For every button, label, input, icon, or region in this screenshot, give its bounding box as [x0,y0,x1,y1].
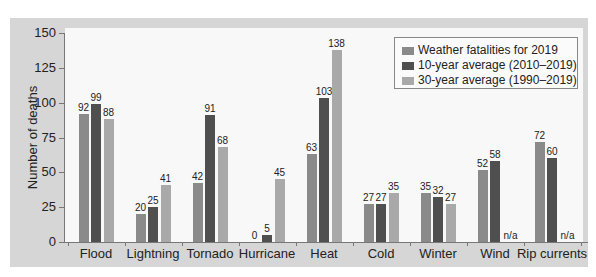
bar [193,183,203,242]
y-tick-label: 50 [16,164,56,179]
value-label: 68 [211,135,235,146]
bar [376,204,386,242]
bar [275,179,285,242]
value-label: 27 [439,192,463,203]
y-tick-label: 150 [16,25,56,40]
legend-item-10yr: 10-year average (2010–2019) [402,58,577,72]
value-label: 88 [97,107,121,118]
legend-label: 30-year average (1990–2019) [418,73,577,87]
legend-swatch [402,62,414,70]
y-tick-label: 75 [16,130,56,145]
legend-swatch [402,77,414,85]
value-label: 45 [268,167,292,178]
y-tick-label: 0 [16,234,56,249]
bar [104,119,114,242]
value-label: 41 [154,173,178,184]
bar [319,98,329,242]
legend-item-2019: Weather fatalities for 2019 [402,43,558,57]
y-axis [64,33,65,243]
bar [421,193,431,242]
bar [218,147,228,242]
bar [262,235,272,242]
bar [364,204,374,242]
value-label: 91 [198,103,222,114]
bar [205,115,215,242]
bar [161,185,171,242]
bar [148,207,158,242]
legend: Weather fatalities for 2019 10-year aver… [394,37,578,89]
legend-label: Weather fatalities for 2019 [418,43,558,57]
bar [433,197,443,242]
bar [478,170,488,242]
na-label: n/a [499,230,523,241]
value-label: 99 [84,92,108,103]
value-label: 60 [540,146,564,157]
y-tick-label: 125 [16,60,56,75]
bar [389,193,399,242]
value-label: 58 [483,149,507,160]
bar [79,114,89,242]
bar [307,154,317,242]
y-tick-label: 100 [16,95,56,110]
value-label: 138 [325,38,349,49]
bar [446,204,456,242]
legend-swatch [402,47,414,55]
bar [332,50,342,242]
x-axis [64,242,588,243]
legend-item-30yr: 30-year average (1990–2019) [402,73,577,87]
bar [136,214,146,242]
category-label: Rip currents [512,246,592,261]
value-label: 35 [382,181,406,192]
y-tick-label: 25 [16,199,56,214]
na-label: n/a [556,230,580,241]
value-label: 72 [528,130,552,141]
bar [91,104,101,242]
legend-label: 10-year average (2010–2019) [418,58,577,72]
